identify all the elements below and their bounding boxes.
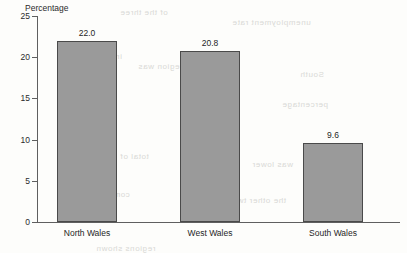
x-axis-category-label: North Wales xyxy=(32,229,142,238)
y-axis-tick-label: 20 xyxy=(4,53,30,62)
y-axis-tick-label: 10 xyxy=(4,136,30,145)
bar xyxy=(180,51,240,222)
bleed-through-text: the other two xyxy=(232,196,286,205)
bleed-through-text: was lower xyxy=(252,160,293,169)
y-axis-tick-mark xyxy=(32,222,37,223)
y-axis-tick-mark xyxy=(32,140,37,141)
bleed-through-text: percentage xyxy=(282,100,328,109)
bar-value-label: 20.8 xyxy=(180,39,240,48)
bleed-through-text: South xyxy=(300,70,324,79)
x-axis-category-label: South Wales xyxy=(278,229,388,238)
bar-chart-screenshot: of the threeunemployment ratein eachthe … xyxy=(0,0,407,253)
x-axis-category-label: West Wales xyxy=(155,229,265,238)
y-axis-line xyxy=(37,16,38,222)
bar-value-label: 22.0 xyxy=(57,29,117,38)
bar-value-label: 9.6 xyxy=(303,131,363,140)
bleed-through-text: of the three xyxy=(120,8,168,17)
y-axis-title: Percentage xyxy=(25,3,68,13)
y-axis-tick-mark xyxy=(32,16,37,17)
y-axis-tick-label: 5 xyxy=(4,177,30,186)
y-axis-tick-label: 25 xyxy=(4,12,30,21)
y-axis-tick-mark xyxy=(32,181,37,182)
bar xyxy=(303,143,363,222)
y-axis-tick-mark xyxy=(32,98,37,99)
bleed-through-text: regions shown xyxy=(96,244,155,253)
bar xyxy=(57,41,117,222)
x-axis-line xyxy=(37,222,400,223)
y-axis-tick-mark xyxy=(32,57,37,58)
bleed-through-text: total of xyxy=(120,152,149,161)
y-axis-tick-label: 0 xyxy=(4,218,30,227)
bleed-through-text: unemployment rate xyxy=(232,18,311,27)
y-axis-tick-label: 15 xyxy=(4,94,30,103)
